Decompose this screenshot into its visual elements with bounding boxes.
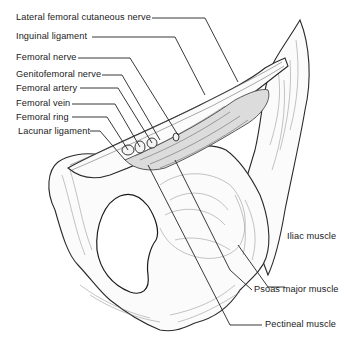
label-inguinal-ligament: Inguinal ligament: [16, 32, 87, 41]
label-pectineal-muscle: Pectineal muscle: [265, 320, 336, 329]
label-iliac-muscle: Iliac muscle: [287, 232, 336, 241]
femoral-nerve-shape: [173, 133, 179, 141]
label-femoral-nerve: Femoral nerve: [16, 53, 77, 62]
label-femoral-vein: Femoral vein: [16, 99, 70, 108]
leader-inguinal-ligament: [92, 37, 205, 95]
label-genitofemoral-nerve: Genitofemoral nerve: [16, 70, 101, 79]
label-lateral-femoral-cutaneous-nerve: Lateral femoral cutaneous nerve: [16, 13, 151, 22]
label-psoas-major-muscle: Psoas major muscle: [254, 285, 339, 294]
label-lacunar-ligament: Lacunar ligament: [18, 127, 90, 136]
leader-lateral-femoral-cutaneous-nerve: [152, 18, 238, 82]
label-femoral-artery: Femoral artery: [16, 84, 77, 93]
label-femoral-ring: Femoral ring: [16, 113, 69, 122]
